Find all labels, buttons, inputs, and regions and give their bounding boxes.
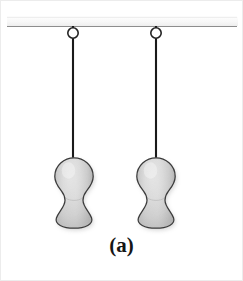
mass-left [55,158,95,231]
pendulum-right [137,26,177,230]
highlight-left [62,162,76,178]
physics-figure: (a) [0,0,243,281]
highlight-right [144,162,158,178]
ceiling-bar-fill [7,17,238,26]
pendulum-left [55,26,95,230]
figure-canvas [1,1,242,280]
suspension-ring-left [68,28,78,38]
ceiling-support [7,17,238,26]
mass-right [137,158,177,231]
suspension-ring-right [151,28,161,38]
